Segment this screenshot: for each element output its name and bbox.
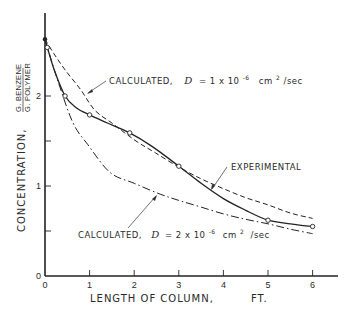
y-unit-denominator: G. POLYMER <box>23 63 32 112</box>
annotation-units-base: cm <box>223 230 237 240</box>
svg-text:CALCULATED, D = 1: CALCULATED, D = 1 x 10 -6 cm 2 /sec <box>109 72 303 86</box>
annotation-exponent: -6 <box>209 228 216 235</box>
y-tick-label: 2 <box>36 91 41 101</box>
x-tick-label: 0 <box>42 280 47 290</box>
y-tick-label: 0 <box>36 271 41 281</box>
annotation-prefix: CALCULATED, <box>78 230 142 240</box>
x-tick-label: 4 <box>221 280 226 290</box>
y-unit-numerator: G. BENZENE <box>14 64 23 112</box>
y-tick-label: 1 <box>36 181 41 191</box>
annotation-calculated-1e-6: CALCULATED, D = 1 x 10 -6 cm 2 /sec <box>87 72 303 94</box>
leader-line <box>128 196 156 228</box>
annotation-units-exp: 2 <box>240 228 244 235</box>
series-experimental <box>45 39 313 226</box>
annotation-units-base: cm <box>259 76 273 86</box>
series-calculated-2e-6 <box>45 39 313 233</box>
data-point-marker <box>45 45 49 49</box>
x-tick-label: 3 <box>176 280 181 290</box>
x-ticks: 0123456 <box>42 270 315 290</box>
x-tick-label: 6 <box>310 280 315 290</box>
annotation-prefix: CALCULATED, <box>109 76 173 86</box>
concentration-chart: 0123456 012 CONCENTRATION, G. BENZENE G.… <box>0 0 351 317</box>
data-point-marker <box>63 94 67 98</box>
data-point-marker <box>266 218 270 222</box>
experimental-label: EXPERIMENTAL <box>231 162 301 172</box>
series-calculated-1e-6 <box>45 39 313 218</box>
x-tick-label: 5 <box>265 280 270 290</box>
diffusivity-symbol: D <box>150 229 160 240</box>
annotation-value: = 1 x 10 <box>199 76 239 86</box>
annotation-units-tail: /sec <box>284 76 303 86</box>
annotation-units-tail: /sec <box>251 230 270 240</box>
start-point <box>43 37 47 41</box>
x-axis-unit: FT. <box>251 293 268 304</box>
diffusivity-symbol: D <box>183 75 193 86</box>
y-ticks: 012 <box>36 91 51 281</box>
arrowhead-icon <box>87 89 93 94</box>
annotation-units-exp: 2 <box>276 74 280 81</box>
annotation-experimental: EXPERIMENTAL <box>211 162 301 190</box>
x-tick-label: 1 <box>87 280 92 290</box>
y-axis-label: CONCENTRATION, <box>16 129 27 232</box>
x-tick-label: 2 <box>132 280 137 290</box>
data-point-marker <box>87 113 91 117</box>
data-point-marker <box>310 224 314 228</box>
data-point-marker <box>177 164 181 168</box>
svg-text:CALCULATED, D = 2: CALCULATED, D = 2 x 10 -6 cm 2 /sec <box>78 226 270 240</box>
series-group <box>43 37 313 234</box>
data-point-marker <box>128 131 132 135</box>
annotation-calculated-2e-6: CALCULATED, D = 2 x 10 -6 cm 2 /sec <box>78 195 270 240</box>
x-axis-label: LENGTH OF COLUMN, <box>90 293 214 304</box>
annotation-exponent: -6 <box>243 74 250 81</box>
markers-group <box>45 45 315 229</box>
annotation-value: = 2 x 10 <box>165 230 205 240</box>
